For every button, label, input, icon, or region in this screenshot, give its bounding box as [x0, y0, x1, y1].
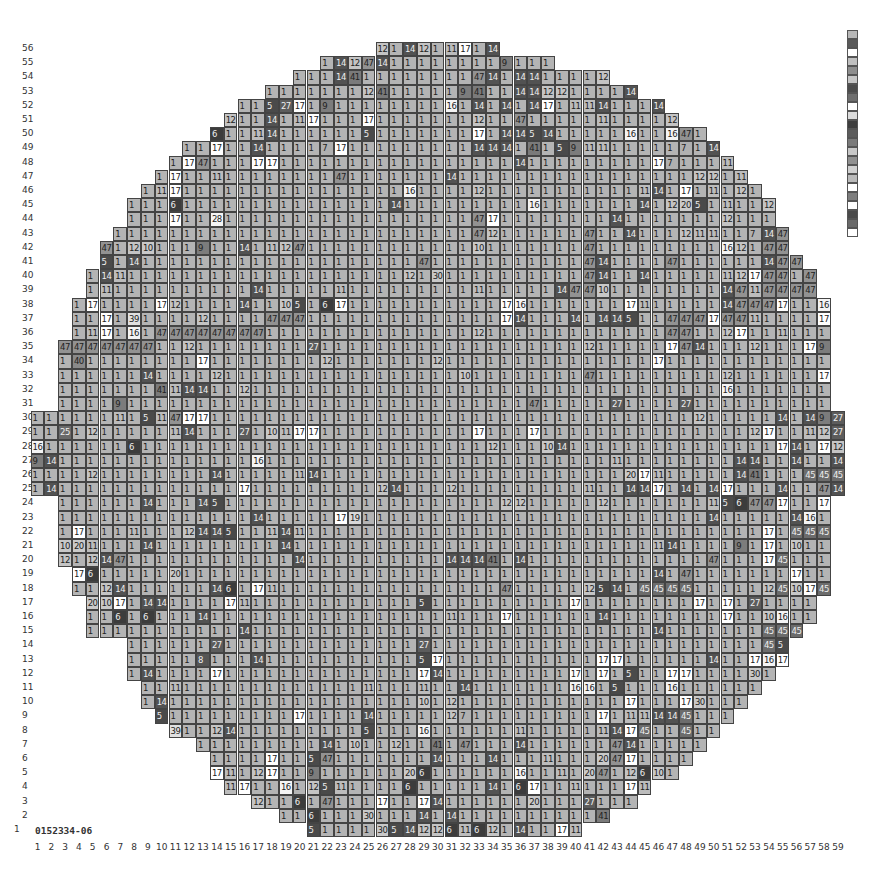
die-cell[interactable]: 1: [141, 283, 155, 297]
die-cell[interactable]: 27: [831, 425, 845, 439]
die-cell[interactable]: 1: [500, 70, 514, 84]
die-cell[interactable]: 1: [707, 709, 721, 723]
die-cell[interactable]: 1: [293, 667, 307, 681]
die-cell[interactable]: 1: [293, 141, 307, 155]
die-cell[interactable]: 1: [541, 667, 555, 681]
die-cell[interactable]: 12: [348, 56, 362, 70]
die-cell[interactable]: 1: [652, 525, 666, 539]
die-cell[interactable]: 1: [652, 695, 666, 709]
die-cell[interactable]: 1: [500, 369, 514, 383]
die-cell[interactable]: 1: [555, 425, 569, 439]
die-cell[interactable]: 14: [679, 482, 693, 496]
die-cell[interactable]: 1: [293, 695, 307, 709]
die-cell[interactable]: 1: [417, 369, 431, 383]
die-cell[interactable]: 1: [679, 440, 693, 454]
die-cell[interactable]: 1: [486, 695, 500, 709]
die-cell[interactable]: 1: [293, 624, 307, 638]
die-cell[interactable]: 14: [486, 70, 500, 84]
die-cell[interactable]: 1: [155, 610, 169, 624]
die-cell[interactable]: 1: [431, 411, 445, 425]
die-cell[interactable]: 1: [652, 553, 666, 567]
die-cell[interactable]: 1: [472, 539, 486, 553]
die-cell[interactable]: 1: [265, 610, 279, 624]
die-cell[interactable]: 1: [569, 227, 583, 241]
die-cell[interactable]: 1: [748, 582, 762, 596]
die-cell[interactable]: 1: [86, 397, 100, 411]
die-cell[interactable]: 17: [762, 539, 776, 553]
die-cell[interactable]: 27: [831, 411, 845, 425]
die-cell[interactable]: 1: [583, 212, 597, 226]
die-cell[interactable]: 1: [693, 425, 707, 439]
die-cell[interactable]: 14: [279, 525, 293, 539]
die-cell[interactable]: 1: [693, 567, 707, 581]
die-cell[interactable]: 1: [279, 184, 293, 198]
die-cell[interactable]: 1: [348, 227, 362, 241]
die-cell[interactable]: 1: [169, 667, 183, 681]
die-cell[interactable]: 1: [610, 667, 624, 681]
die-cell[interactable]: 1: [403, 411, 417, 425]
die-cell[interactable]: 1: [638, 567, 652, 581]
die-cell[interactable]: 1: [417, 227, 431, 241]
die-cell[interactable]: 1: [279, 567, 293, 581]
die-cell[interactable]: 1: [665, 766, 679, 780]
die-cell[interactable]: 17: [652, 482, 666, 496]
die-cell[interactable]: 1: [334, 127, 348, 141]
die-cell[interactable]: 1: [169, 312, 183, 326]
die-cell[interactable]: 1: [279, 411, 293, 425]
die-cell[interactable]: 1: [762, 567, 776, 581]
die-cell[interactable]: 12: [762, 198, 776, 212]
die-cell[interactable]: 1: [707, 212, 721, 226]
die-cell[interactable]: 1: [307, 312, 321, 326]
die-cell[interactable]: 1: [431, 212, 445, 226]
die-cell[interactable]: 1: [596, 695, 610, 709]
die-cell[interactable]: 41: [376, 85, 390, 99]
die-cell[interactable]: 1: [803, 482, 817, 496]
die-cell[interactable]: 1: [182, 638, 196, 652]
die-cell[interactable]: 1: [583, 298, 597, 312]
die-cell[interactable]: 1: [583, 468, 597, 482]
die-cell[interactable]: 1: [362, 823, 376, 837]
die-cell[interactable]: 1: [417, 198, 431, 212]
die-cell[interactable]: 1: [596, 198, 610, 212]
die-cell[interactable]: 1: [293, 127, 307, 141]
die-cell[interactable]: 1: [624, 198, 638, 212]
die-cell[interactable]: 14: [776, 482, 790, 496]
die-cell[interactable]: 14: [334, 56, 348, 70]
die-cell[interactable]: 1: [196, 198, 210, 212]
die-cell[interactable]: 1: [445, 780, 459, 794]
die-cell[interactable]: 11: [458, 823, 472, 837]
die-cell[interactable]: 16: [514, 298, 528, 312]
die-cell[interactable]: 1: [541, 156, 555, 170]
die-cell[interactable]: 1: [293, 198, 307, 212]
die-cell[interactable]: 1: [486, 326, 500, 340]
die-cell[interactable]: 1: [182, 468, 196, 482]
die-cell[interactable]: 1: [514, 610, 528, 624]
die-cell[interactable]: 10: [58, 539, 72, 553]
die-cell[interactable]: 1: [486, 383, 500, 397]
die-cell[interactable]: 1: [445, 283, 459, 297]
die-cell[interactable]: 1: [293, 653, 307, 667]
die-cell[interactable]: 1: [472, 738, 486, 752]
die-cell[interactable]: 1: [127, 298, 141, 312]
die-cell[interactable]: 1: [348, 198, 362, 212]
die-cell[interactable]: 14: [514, 312, 528, 326]
die-cell[interactable]: 1: [210, 738, 224, 752]
die-cell[interactable]: 1: [734, 695, 748, 709]
die-cell[interactable]: 1: [182, 227, 196, 241]
die-cell[interactable]: 1: [555, 454, 569, 468]
die-cell[interactable]: 47: [762, 298, 776, 312]
die-cell[interactable]: 1: [169, 539, 183, 553]
die-cell[interactable]: 19: [348, 511, 362, 525]
die-cell[interactable]: 1: [403, 227, 417, 241]
die-cell[interactable]: 12: [596, 70, 610, 84]
die-cell[interactable]: 1: [596, 425, 610, 439]
die-cell[interactable]: 47: [762, 269, 776, 283]
die-cell[interactable]: 1: [583, 70, 597, 84]
die-cell[interactable]: 1: [431, 85, 445, 99]
die-cell[interactable]: 1: [624, 156, 638, 170]
die-cell[interactable]: 1: [445, 70, 459, 84]
die-cell[interactable]: 12: [169, 298, 183, 312]
die-cell[interactable]: 1: [417, 383, 431, 397]
die-cell[interactable]: 1: [224, 468, 238, 482]
die-cell[interactable]: 1: [665, 184, 679, 198]
